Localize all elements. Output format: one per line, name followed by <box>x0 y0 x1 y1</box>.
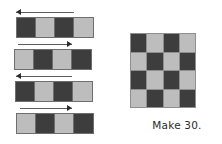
strip-cell <box>74 114 93 133</box>
strip-cell <box>74 18 93 37</box>
board-square <box>164 34 179 52</box>
board-square <box>131 71 146 89</box>
strip-group-2 <box>0 40 110 70</box>
checkerboard-grid <box>130 33 196 108</box>
strip-1 <box>16 17 94 38</box>
strip-group-4 <box>0 104 110 134</box>
board-square <box>147 71 162 89</box>
board-square <box>180 34 195 52</box>
strip-cell <box>73 82 92 101</box>
strip-cell <box>36 18 55 37</box>
board-square <box>180 71 195 89</box>
strip-cell <box>36 114 55 133</box>
strip-cell <box>17 114 36 133</box>
arrow-shaft <box>18 44 72 45</box>
arrow-shaft <box>16 12 74 13</box>
strip-group-3 <box>0 72 110 102</box>
board-square <box>131 53 146 71</box>
board-square <box>180 90 195 108</box>
strip-cell <box>54 82 73 101</box>
strip-cell <box>17 18 36 37</box>
strip-4-arrow <box>0 104 110 113</box>
strip-cell <box>55 114 74 133</box>
board-square <box>180 53 195 71</box>
board-square <box>147 34 162 52</box>
board-square <box>147 53 162 71</box>
board-square <box>131 34 146 52</box>
arrow-right-icon <box>67 105 72 111</box>
arrow-shaft <box>20 108 72 109</box>
board-square <box>164 90 179 108</box>
strip-cell <box>16 82 35 101</box>
strip-3-arrow <box>0 72 110 81</box>
board-square <box>164 71 179 89</box>
checkerboard-panel: Make 30. <box>130 33 220 108</box>
arrow-shaft <box>16 76 72 77</box>
strip-4 <box>16 113 94 134</box>
board-caption: Make 30. <box>134 119 220 131</box>
illustration-canvas: Make 30. <box>0 0 222 144</box>
arrow-left-icon <box>16 9 21 15</box>
strip-cell <box>53 50 72 69</box>
board-square <box>147 90 162 108</box>
strip-group-1 <box>0 8 110 38</box>
strip-cell <box>55 18 74 37</box>
strip-cell <box>35 82 54 101</box>
strip-cell <box>15 50 34 69</box>
board-square <box>164 53 179 71</box>
strip-3 <box>15 81 93 102</box>
arrow-right-icon <box>67 41 72 47</box>
strips-panel <box>0 0 110 144</box>
strip-cell <box>72 50 91 69</box>
board-square <box>131 90 146 108</box>
strip-2-arrow <box>0 40 110 49</box>
arrow-left-icon <box>16 73 21 79</box>
strip-1-arrow <box>0 8 110 17</box>
strip-2 <box>14 49 92 70</box>
strip-cell <box>34 50 53 69</box>
